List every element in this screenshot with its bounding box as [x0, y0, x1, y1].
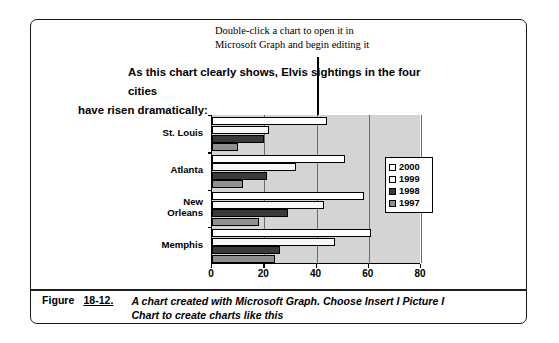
chart-legend[interactable]: 2000199919981997 — [385, 157, 433, 213]
category-tick — [208, 152, 212, 153]
category-label-atlanta: Atlanta — [127, 164, 203, 175]
bar-st-louis-1998[interactable] — [212, 135, 264, 143]
category-axis-labels: St. LouisAtlantaNewOrleansMemphis — [131, 112, 207, 264]
legend-label: 1998 — [399, 186, 420, 196]
x-tick-label: 20 — [251, 268, 275, 279]
bar-new-orleans-2000[interactable] — [212, 192, 364, 200]
legend-item-1998[interactable]: 1998 — [389, 185, 428, 197]
bar-new-orleans-1999[interactable] — [212, 201, 324, 209]
legend-swatch-icon — [389, 188, 396, 195]
category-tick — [208, 227, 212, 228]
bar-atlanta-1997[interactable] — [212, 180, 243, 188]
legend-label: 2000 — [399, 162, 420, 172]
caption-figure-label: Figure — [30, 294, 74, 306]
gridline — [369, 115, 370, 263]
caption-text: A chart created with Microsoft Graph. Ch… — [131, 294, 461, 323]
category-tick — [208, 190, 212, 191]
bar-memphis-1999[interactable] — [212, 238, 335, 246]
bar-atlanta-2000[interactable] — [212, 155, 345, 163]
x-tick-label: 0 — [199, 268, 223, 279]
category-tick — [208, 115, 212, 116]
category-label-new-orleans: NewOrleans — [127, 196, 203, 218]
bar-memphis-1998[interactable] — [212, 246, 280, 254]
bar-atlanta-1999[interactable] — [212, 163, 296, 171]
bar-new-orleans-1998[interactable] — [212, 209, 288, 217]
caption-figure-number: 18-12. — [83, 294, 113, 306]
callout-note: Double-click a chart to open it in Micro… — [215, 24, 430, 52]
bar-new-orleans-1997[interactable] — [212, 218, 259, 226]
legend-item-1997[interactable]: 1997 — [389, 197, 428, 209]
legend-swatch-icon — [389, 176, 396, 183]
bar-st-louis-2000[interactable] — [212, 117, 327, 125]
bar-memphis-2000[interactable] — [212, 229, 371, 237]
category-label-memphis: Memphis — [127, 239, 203, 250]
figure-caption: Figure 18-12. A chart created with Micro… — [30, 294, 527, 324]
x-tick-label: 60 — [356, 268, 380, 279]
legend-label: 1997 — [399, 198, 420, 208]
legend-swatch-icon — [389, 200, 396, 207]
bar-st-louis-1997[interactable] — [212, 143, 238, 151]
x-tick-label: 80 — [408, 268, 432, 279]
legend-item-1999[interactable]: 1999 — [389, 173, 428, 185]
category-label-st-louis: St. Louis — [127, 127, 203, 138]
bar-st-louis-1999[interactable] — [212, 126, 269, 134]
legend-swatch-icon — [389, 164, 396, 171]
bar-memphis-1997[interactable] — [212, 255, 275, 263]
bar-atlanta-1998[interactable] — [212, 172, 267, 180]
caption-rule — [30, 289, 527, 291]
callout-line-2: Microsoft Graph and begin editing it — [215, 38, 430, 52]
x-tick-label: 40 — [304, 268, 328, 279]
legend-item-2000[interactable]: 2000 — [389, 161, 428, 173]
page-title: As this chart clearly shows, Elvis sight… — [78, 63, 438, 119]
legend-label: 1999 — [399, 174, 420, 184]
callout-line-1: Double-click a chart to open it in — [215, 24, 430, 38]
figure-page: Double-click a chart to open it in Micro… — [0, 0, 559, 343]
heading-line-1: As this chart clearly shows, Elvis sight… — [128, 63, 438, 101]
